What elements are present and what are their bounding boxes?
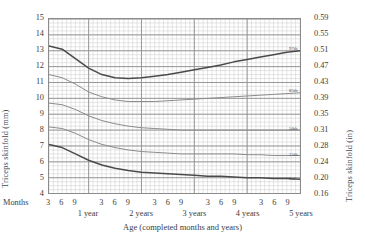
curve-85th (49, 75, 300, 102)
x-tick-year: 2 years (118, 209, 164, 218)
y-tick-left: 13 (24, 45, 44, 54)
y-tick-left: 11 (24, 77, 44, 86)
y-tick-right: 0.20 (314, 173, 340, 182)
curve-3rd (49, 144, 300, 179)
y-tick-left: 12 (24, 61, 44, 70)
y-tick-right: 0.47 (314, 61, 340, 70)
plot-area (48, 18, 301, 194)
y-tick-right: 0.39 (314, 93, 340, 102)
x-tick-year: 1 year (65, 209, 111, 218)
y-axis-title-right: Triceps skinfold (in) (345, 52, 354, 202)
percentile-label-3rd: 3rd (289, 176, 295, 181)
y-tick-right: 0.31 (314, 125, 340, 134)
x-tick-year: 4 years (225, 209, 271, 218)
y-tick-left: 5 (24, 173, 44, 182)
x-axis-title: Age (completed months and years) (0, 222, 365, 232)
x-tick-month: 9 (65, 198, 85, 207)
y-tick-left: 15 (24, 13, 44, 22)
y-tick-left: 14 (24, 29, 44, 38)
curve-15th (49, 127, 300, 156)
x-tick-month: 9 (224, 198, 244, 207)
percentile-label-50th: 50th (289, 126, 298, 131)
y-tick-left: 10 (24, 93, 44, 102)
y-tick-right: 0.51 (314, 45, 340, 54)
x-tick-month: 9 (278, 198, 298, 207)
y-tick-right: 0.24 (314, 157, 340, 166)
x-tick-month: 9 (118, 198, 138, 207)
y-tick-left: 4 (24, 189, 44, 198)
y-tick-left: 6 (24, 157, 44, 166)
x-tick-year: 5 years (278, 209, 324, 218)
y-tick-right: 0.28 (314, 141, 340, 150)
y-tick-left: 8 (24, 125, 44, 134)
y-tick-right: 0.59 (314, 13, 340, 22)
x-tick-year: 3 years (171, 209, 217, 218)
curve-50th (49, 103, 300, 130)
y-tick-left: 9 (24, 109, 44, 118)
percentile-curves (49, 19, 300, 194)
y-tick-right: 0.43 (314, 77, 340, 86)
curve-97th (49, 46, 300, 79)
x-tick-month: 9 (171, 198, 191, 207)
y-tick-right: 0.16 (314, 189, 340, 198)
percentile-label-15th: 15th (289, 152, 298, 157)
y-tick-left: 7 (24, 141, 44, 150)
months-axis-label: Months (3, 198, 28, 207)
percentile-label-97th: 97th (289, 46, 298, 51)
y-tick-right: 0.35 (314, 109, 340, 118)
y-axis-title-left: Triceps skinfold (mm) (1, 38, 10, 188)
y-tick-right: 0.55 (314, 29, 340, 38)
percentile-label-85th: 85th (289, 88, 298, 93)
